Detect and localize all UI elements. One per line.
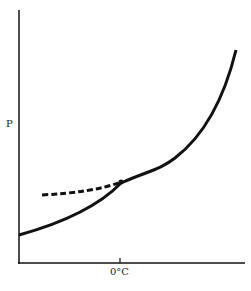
y-axis-label: P <box>6 118 13 129</box>
plot-area <box>0 0 251 291</box>
solid-curve <box>19 50 236 235</box>
x-tick-label: 0°C <box>110 266 129 277</box>
diagram: P 0°C <box>0 0 251 291</box>
junction-point <box>119 180 124 185</box>
